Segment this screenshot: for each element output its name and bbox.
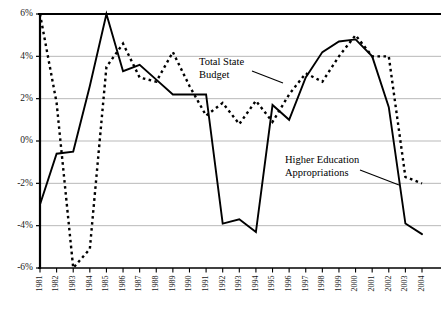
x-axis-label-2002: 2002 bbox=[384, 275, 393, 291]
x-axis-label-1996: 1996 bbox=[284, 275, 293, 291]
y-axis-label-neg4: -4% bbox=[17, 220, 33, 230]
chart-container: 6%4%2%0%-2%-4%-6% 1981198219831984198519… bbox=[0, 0, 448, 310]
y-axis-label-neg2: -2% bbox=[17, 178, 33, 188]
y-axis-label-2: 2% bbox=[20, 93, 33, 103]
x-axis-label-1982: 1982 bbox=[51, 276, 60, 292]
x-axis-label-1994: 1994 bbox=[251, 275, 260, 291]
x-axis-label-1985: 1985 bbox=[101, 275, 110, 291]
x-axis-label-1990: 1990 bbox=[184, 276, 193, 292]
x-axis-label-2004: 2004 bbox=[417, 276, 426, 292]
x-axis-label-2001: 2001 bbox=[367, 275, 376, 291]
x-axis-label-1988: 1988 bbox=[151, 275, 160, 291]
x-axis-label-1993: 1993 bbox=[234, 275, 243, 291]
growth-rate-line-chart: 6%4%2%0%-2%-4%-6% 1981198219831984198519… bbox=[0, 0, 448, 310]
y-axis-label-4: 4% bbox=[20, 51, 33, 61]
x-axis-label-1986: 1986 bbox=[118, 275, 127, 291]
x-axis-label-1995: 1995 bbox=[267, 275, 276, 291]
x-axis-label-1998: 1998 bbox=[317, 276, 326, 292]
x-axis-label-1992: 1992 bbox=[218, 276, 227, 292]
x-axis-label-1984: 1984 bbox=[85, 276, 94, 292]
x-axis-label-1981: 1981 bbox=[35, 276, 44, 292]
y-axis-label-0: 0% bbox=[20, 135, 33, 145]
x-axis-label-1991: 1991 bbox=[201, 276, 210, 292]
x-axis-label-1987: 1987 bbox=[134, 275, 143, 291]
x-axis-label-1997: 1997 bbox=[301, 276, 310, 292]
y-axis-label-6: 6% bbox=[20, 8, 33, 18]
x-axis-label-2000: 2000 bbox=[350, 276, 359, 292]
x-axis-label-1989: 1989 bbox=[168, 276, 177, 292]
x-axis-label-1983: 1983 bbox=[68, 276, 77, 292]
x-axis-label-1999: 1999 bbox=[334, 276, 343, 292]
y-axis-label-neg6: -6% bbox=[17, 262, 33, 272]
x-axis-label-2003: 2003 bbox=[400, 275, 409, 291]
chart-background bbox=[0, 0, 448, 310]
